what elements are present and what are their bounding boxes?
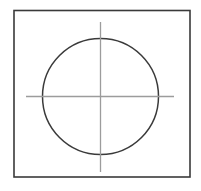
technical-drawing-figure xyxy=(0,0,201,191)
drawing-canvas xyxy=(0,0,201,191)
